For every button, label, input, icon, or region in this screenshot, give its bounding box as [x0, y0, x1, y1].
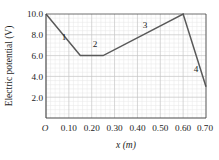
- x-axis-title: x (m): [115, 140, 136, 151]
- x-tick-label: 0.20: [84, 123, 100, 133]
- x-tick-label: 0.30: [107, 123, 123, 133]
- electric-potential-chart: 1 2 3 4 10.0 8.0 6.0 4.0 2.0 O 0.10 0.20…: [0, 0, 219, 160]
- y-tick-label: 2.0: [32, 93, 44, 103]
- x-tick-label: 0.60: [175, 123, 191, 133]
- y-tick-label: 10.0: [27, 9, 43, 19]
- plot-background: [46, 14, 206, 118]
- y-tick-label: 4.0: [32, 72, 44, 82]
- y-axis-title: Electric potential (V): [4, 26, 15, 107]
- origin-label: O: [42, 123, 49, 133]
- x-tick-label: 0.70: [197, 123, 213, 133]
- segment-label-1: 1: [62, 32, 67, 42]
- segment-label-4: 4: [194, 64, 199, 74]
- plot-area: [46, 14, 206, 118]
- chart-canvas: 1 2 3 4 10.0 8.0 6.0 4.0 2.0 O 0.10 0.20…: [0, 0, 219, 160]
- x-tick-label: 0.40: [129, 123, 145, 133]
- y-tick-label: 6.0: [32, 51, 44, 61]
- y-tick-label: 8.0: [32, 30, 44, 40]
- x-tick-label: 0.10: [61, 123, 77, 133]
- x-tick-label: 0.50: [152, 123, 168, 133]
- segment-label-3: 3: [143, 20, 148, 30]
- segment-label-2: 2: [93, 39, 98, 49]
